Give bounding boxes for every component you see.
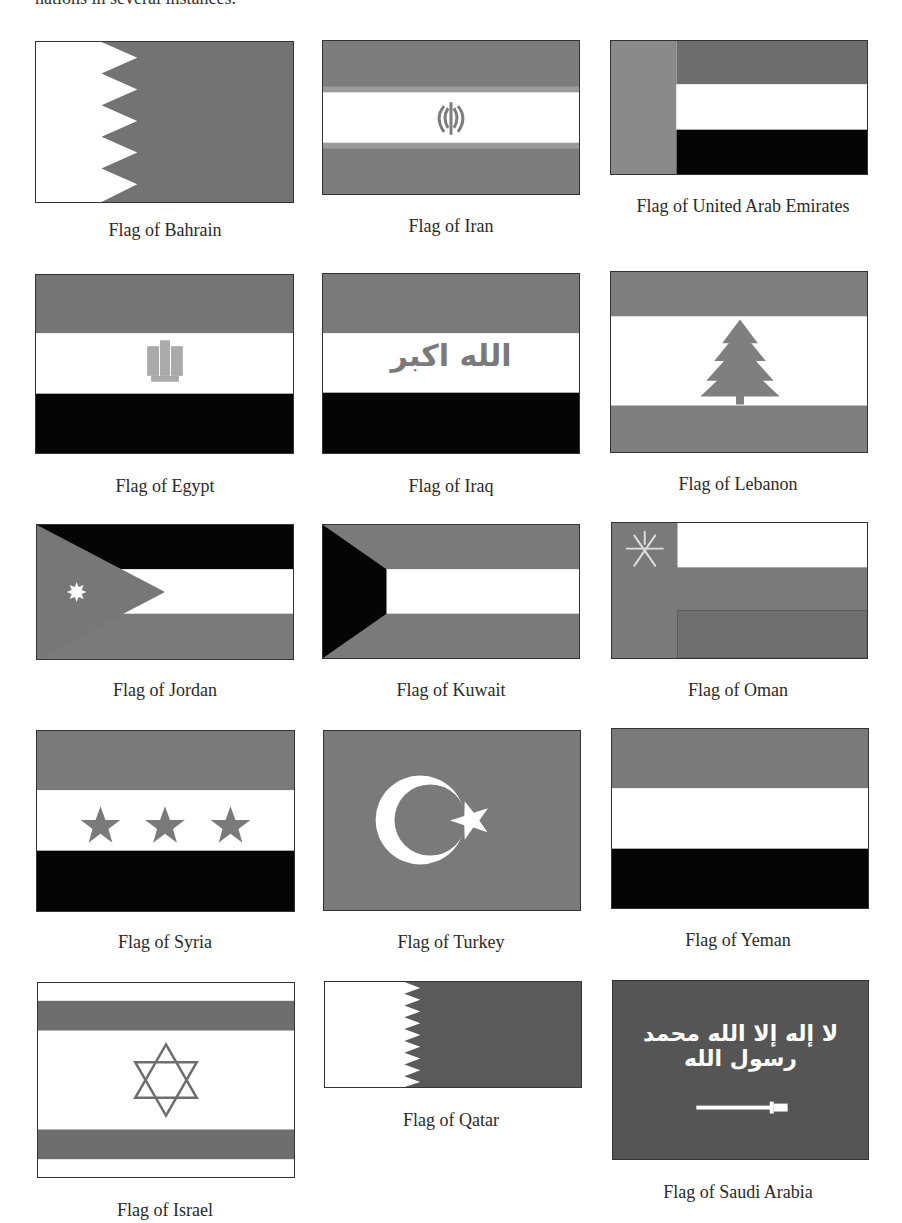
caption-iraq: Flag of Iraq xyxy=(311,476,591,497)
flag-jordan xyxy=(36,524,294,660)
caption-saudi-arabia: Flag of Saudi Arabia xyxy=(598,1182,878,1203)
flag-turkey xyxy=(323,730,581,911)
caption-lebanon: Flag of Lebanon xyxy=(598,474,878,495)
caption-egypt: Flag of Egypt xyxy=(25,476,305,497)
flag-saudi-arabia: لا إله إلا الله محمد رسول الله xyxy=(612,980,869,1160)
caption-oman: Flag of Oman xyxy=(598,680,878,701)
flag-iran xyxy=(322,40,580,195)
caption-yemen: Flag of Yeman xyxy=(598,930,878,951)
flag-kuwait xyxy=(322,524,580,659)
flag-bahrain xyxy=(35,41,294,203)
caption-turkey: Flag of Turkey xyxy=(311,932,591,953)
flag-israel xyxy=(37,982,295,1178)
flag-oman xyxy=(611,522,868,659)
eagle-emblem-icon xyxy=(147,340,183,382)
caption-kuwait: Flag of Kuwait xyxy=(311,680,591,701)
flag-syria xyxy=(36,730,295,912)
caption-qatar: Flag of Qatar xyxy=(311,1110,591,1131)
caption-uae: Flag of United Arab Emirates xyxy=(598,196,888,217)
shahada-text: لا إله إلا الله محمد رسول الله xyxy=(613,1021,868,1071)
caption-bahrain: Flag of Bahrain xyxy=(25,220,305,241)
flag-yemen xyxy=(611,728,869,909)
top-partial-text: nations in several instances. xyxy=(35,0,236,9)
flag-uae xyxy=(610,40,868,175)
caption-jordan: Flag of Jordan xyxy=(25,680,305,701)
caption-iran: Flag of Iran xyxy=(311,216,591,237)
flag-lebanon xyxy=(610,271,868,453)
caption-syria: Flag of Syria xyxy=(25,932,305,953)
flag-qatar xyxy=(324,981,582,1088)
iraq-takbir-text: الله اكبر xyxy=(323,338,579,373)
flag-iraq: الله اكبر xyxy=(322,273,580,454)
flag-egypt xyxy=(35,274,294,454)
caption-israel: Flag of Israel xyxy=(25,1200,305,1221)
